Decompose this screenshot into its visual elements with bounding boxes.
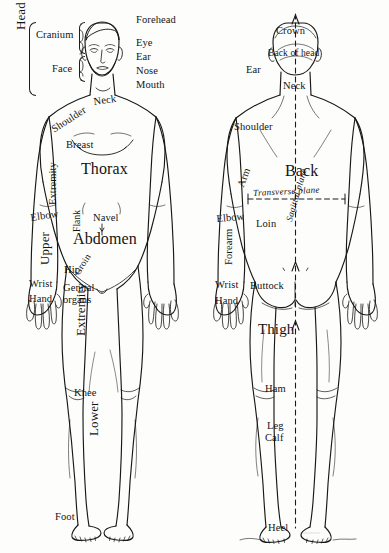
region-label-wrist: Wrist [29,279,52,290]
region-label-face: Face [52,64,72,75]
head-bracket-outer [29,22,36,96]
region-label-abdomen: Abdomen [73,231,137,247]
region-label-hand-back: Hand [215,296,238,307]
head-bracket-face [79,56,85,82]
region-label-ear-back: Ear [246,65,261,76]
region-label-foot: Foot [55,512,75,523]
region-label-navel: Navel [93,213,119,224]
region-label-lower: Lower [87,402,100,436]
region-label-crown: Crown [276,26,305,37]
region-label-ham: Ham [265,384,286,395]
back-figure-outline [214,14,378,544]
region-label-cranium: Cranium [36,30,73,41]
region-label-hand: Hand [29,294,52,305]
region-label-heel: Heel [268,523,288,534]
region-label-shoulder-back: Shoulder [234,122,273,133]
region-label-head: Head [14,2,27,30]
anatomical-plate: HeadCraniumFaceForeheadEyeEarNoseMouthNe… [0,0,389,553]
region-label-upper: Upper [38,232,51,265]
region-label-buttock: Buttock [250,281,284,292]
region-label-hip: Hip [64,265,80,276]
region-label-eye: Eye [136,38,153,49]
region-label-flank: Flank [73,210,83,232]
region-label-forearm: Forearm [224,229,235,265]
artist-signature: ~~~~~~~ [300,531,320,536]
region-label-thorax: Thorax [81,161,128,177]
region-label-extremity-low: Extremity [74,283,87,336]
region-label-ear: Ear [136,52,151,63]
region-label-neck-back: Neck [283,81,306,92]
region-label-forehead: Forehead [136,15,176,26]
region-label-thigh: Thigh [258,322,294,337]
figure-illustrations [0,0,389,553]
region-label-knee: Knee [74,388,97,399]
region-label-back-of-head: Back of head [268,49,319,59]
region-label-breast: Breast [66,140,93,151]
region-label-calf: Calf [265,433,283,444]
region-label-wrist-back: Wrist [215,280,238,291]
region-label-nose: Nose [136,66,158,77]
region-label-extremity-up: Extremity [48,162,59,205]
region-label-leg: Leg [267,421,284,432]
head-bracket-cranium [79,22,85,54]
region-label-loin: Loin [256,219,276,230]
region-label-mouth: Mouth [136,80,165,91]
